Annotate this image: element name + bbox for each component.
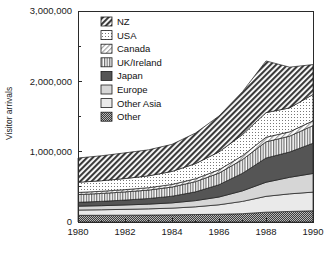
x-axis-tick-label: 1982 [114, 226, 135, 237]
stacked-area-chart: 01,000,0002,000,0003,000,000198019821984… [0, 0, 330, 254]
x-axis-tick-label: 1990 [302, 226, 323, 237]
x-axis-tick-label: 1988 [255, 226, 276, 237]
legend-swatch-canada [101, 44, 112, 53]
legend-swatch-europe [101, 85, 112, 94]
legend-swatch-other [101, 112, 112, 121]
legend-label-japan: Japan [117, 70, 143, 81]
legend-swatch-nz [101, 17, 112, 26]
legend-label-other: Other [117, 111, 141, 122]
legend-label-usa: USA [117, 30, 137, 41]
legend-label-nz: NZ [117, 16, 130, 27]
legend-swatch-usa [101, 31, 112, 40]
x-axis-tick-label: 1986 [208, 226, 229, 237]
y-axis-tick-label: 1,000,000 [30, 146, 72, 157]
legend-swatch-uk-ireland [101, 58, 112, 67]
legend-swatch-other-asia [101, 99, 112, 108]
plot-series-group [78, 61, 313, 222]
x-axis-tick-label: 1984 [161, 226, 182, 237]
legend-label-uk-ireland: UK/Ireland [117, 57, 162, 68]
chart-canvas: 01,000,0002,000,0003,000,000198019821984… [0, 0, 330, 254]
y-axis-tick-label: 2,000,000 [30, 76, 72, 87]
chart-legend: NZUSACanadaUK/IrelandJapanEuropeOther As… [101, 16, 162, 122]
y-axis-title: Visitor arrivals [4, 87, 14, 140]
legend-label-other-asia: Other Asia [117, 98, 162, 109]
legend-label-europe: Europe [117, 84, 148, 95]
legend-label-canada: Canada [117, 43, 151, 54]
legend-swatch-japan [101, 71, 112, 80]
x-axis-tick-label: 1980 [67, 226, 88, 237]
y-axis-tick-label: 3,000,000 [30, 5, 72, 16]
